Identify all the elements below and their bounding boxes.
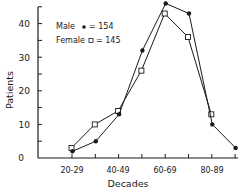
legend-female-count: = 145 [96,36,121,45]
male-point-icon [117,112,121,116]
x-tick-label-40-49: 40-49 [106,166,129,175]
male-point-icon [94,139,98,143]
male-point-icon [70,149,74,153]
female-point-icon [162,11,167,16]
male-point-icon [164,1,168,5]
male-point-icon [210,122,214,126]
legend: Male = 154 Female = 145 [56,22,121,45]
series-female [69,11,214,150]
legend-male-label: Male [56,22,75,31]
x-tick-label-80-89: 80-89 [200,166,223,175]
female-point-icon [186,35,191,40]
legend-male-count: = 154 [89,22,114,31]
series-line [72,14,212,148]
x-axis-title: Decades [107,178,148,189]
legend-female-label: Female [56,36,85,45]
y-tick-label-30: 30 [19,53,31,63]
male-point-icon [187,11,191,15]
patients-by-decade-chart: 0 10 20 30 40 20-29 40-49 60-69 80-89 De… [0,0,252,195]
y-tick-label-40: 40 [19,19,31,29]
legend-female-marker-icon [89,39,93,43]
male-point-icon [233,146,237,150]
male-point-icon [140,48,144,52]
x-tick-label-20-29: 20-29 [60,166,83,175]
x-tick-label-60-69: 60-69 [153,166,176,175]
y-tick-label-10: 10 [19,120,31,130]
legend-male-marker-icon [82,25,86,29]
y-axis-title: Patients [4,71,15,109]
female-point-icon [139,68,144,73]
female-point-icon [92,122,97,127]
y-tick-label-20: 20 [19,86,31,96]
y-tick-label-0: 0 [18,153,24,163]
